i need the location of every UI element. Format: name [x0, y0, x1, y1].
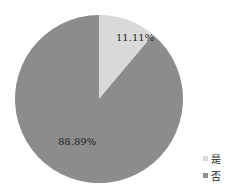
- legend-swatch-yes: [203, 156, 208, 161]
- legend-label-no: 否: [211, 168, 221, 183]
- legend-item-no: 否: [203, 167, 221, 184]
- chart-legend: 是 否: [203, 150, 221, 184]
- slice-label-no: 88.89%: [58, 136, 96, 147]
- legend-label-yes: 是: [211, 151, 221, 166]
- pie-chart: [0, 0, 232, 196]
- legend-item-yes: 是: [203, 150, 221, 167]
- slice-label-yes: 11.11%: [116, 32, 154, 43]
- pie-slice-no: [15, 15, 183, 183]
- legend-swatch-no: [203, 173, 208, 178]
